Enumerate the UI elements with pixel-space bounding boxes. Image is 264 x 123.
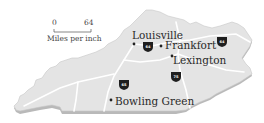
- city-label-bowling-green: Bowling Green: [115, 96, 194, 107]
- shield-number-i65: 65: [121, 83, 127, 87]
- scale-end-label: 64: [84, 19, 94, 27]
- shield-number-i64-west: 64: [145, 45, 151, 49]
- city-dot-bowling-green: [110, 99, 113, 102]
- city-label-frankfort: Frankfort: [165, 40, 216, 51]
- scale-caption: Miles per inch: [47, 35, 102, 43]
- city-label-lexington: Lexington: [173, 55, 226, 66]
- scale-start-label: 0: [52, 19, 57, 27]
- shield-number-i64-east: 64: [219, 40, 225, 44]
- city-dot-louisville: [133, 43, 136, 46]
- city-dot-frankfort: [160, 45, 163, 48]
- scale-bar: [54, 29, 91, 32]
- kentucky-map: 64 64 65 75 0 64 Miles per inch Louisvil…: [0, 0, 264, 123]
- shield-number-i75: 75: [173, 75, 179, 79]
- scale-bar-line: [54, 29, 91, 32]
